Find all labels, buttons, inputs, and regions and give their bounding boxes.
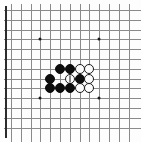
grid-line-horizontal — [4, 98, 141, 99]
black-stone[interactable] — [55, 83, 65, 93]
board-left-edge — [5, 6, 7, 138]
grid-line-horizontal — [4, 49, 141, 50]
star-point — [98, 38, 101, 41]
grid-line-vertical — [99, 4, 100, 142]
white-stone-marked[interactable] — [65, 74, 75, 84]
go-board-figure — [0, 0, 141, 142]
white-stone[interactable] — [84, 74, 94, 84]
black-stone[interactable] — [55, 64, 65, 74]
grid-line-horizontal — [4, 108, 141, 109]
grid-line-horizontal — [4, 128, 141, 129]
grid-line-horizontal — [4, 30, 141, 31]
grid-line-horizontal — [4, 39, 141, 40]
grid-line-horizontal — [4, 20, 141, 21]
star-point — [98, 97, 101, 100]
grid-line-vertical — [11, 4, 12, 142]
white-stone[interactable] — [75, 64, 85, 74]
black-stone[interactable] — [45, 74, 55, 84]
white-stone[interactable] — [84, 83, 94, 93]
grid-line-vertical — [129, 4, 130, 142]
black-stone[interactable] — [45, 83, 55, 93]
stone-marker-icon — [69, 75, 70, 82]
white-stone[interactable] — [75, 83, 85, 93]
grid-line-horizontal — [4, 10, 141, 11]
star-point — [39, 38, 42, 41]
grid-line-vertical — [50, 4, 51, 142]
black-stone[interactable] — [75, 74, 85, 84]
grid-line-vertical — [21, 4, 22, 142]
white-stone[interactable] — [84, 64, 94, 74]
grid-line-vertical — [119, 4, 120, 142]
grid-line-vertical — [109, 4, 110, 142]
grid-line-horizontal — [4, 118, 141, 119]
black-stone[interactable] — [65, 83, 75, 93]
goban-grid[interactable] — [0, 0, 141, 142]
grid-line-vertical — [40, 4, 41, 142]
star-point — [39, 97, 42, 100]
grid-line-horizontal — [4, 59, 141, 60]
grid-line-vertical — [31, 4, 32, 142]
black-stone[interactable] — [65, 64, 75, 74]
